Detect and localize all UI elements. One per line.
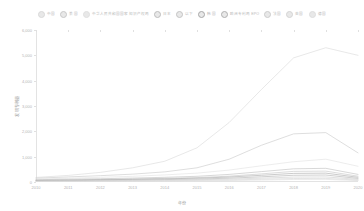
legend-marker-icon xyxy=(60,11,67,18)
x-tick-mark xyxy=(326,30,327,32)
legend-label: 英国 xyxy=(295,12,303,17)
legend-label: 日本 xyxy=(163,12,171,17)
legend-item-7[interactable]: 法国 xyxy=(264,11,281,18)
legend-marker-icon xyxy=(221,11,228,18)
legend-label: 以下 xyxy=(185,12,193,17)
x-tick-label: 2017 xyxy=(257,185,266,190)
legend-marker-icon xyxy=(264,11,271,18)
x-tick-mark xyxy=(294,30,295,32)
legend-marker-icon xyxy=(286,11,293,18)
legend-item-1[interactable]: 美国 xyxy=(60,11,77,18)
legend-label: 美国 xyxy=(69,12,77,17)
legend-item-3[interactable]: 日本 xyxy=(154,11,171,18)
x-tick-label: 2018 xyxy=(289,185,298,190)
y-tick-mark xyxy=(34,131,36,132)
y-tick-label: 2,000 xyxy=(22,129,32,134)
legend-item-8[interactable]: 英国 xyxy=(286,11,303,18)
x-tick-mark xyxy=(68,30,69,32)
legend-marker-icon xyxy=(38,11,45,18)
x-tick-mark xyxy=(133,30,134,32)
series-lines xyxy=(36,30,358,182)
y-tick-label: 3,000 xyxy=(22,104,32,109)
x-tick-label: 2016 xyxy=(225,185,234,190)
x-tick-label: 2014 xyxy=(160,185,169,190)
legend-item-2[interactable]: 中华人民共和国国家知识产权局 xyxy=(83,11,149,18)
x-tick-label: 2011 xyxy=(64,185,73,190)
plot-area: 01,0002,0003,0004,0005,0006,000201020112… xyxy=(36,30,358,182)
chart-legend: 中国美国中华人民共和国国家知识产权局日本以下韩国欧洲专利局 EPO法国英国德国 xyxy=(0,11,364,18)
legend-label: 中华人民共和国国家知识产权局 xyxy=(92,12,149,17)
y-tick-mark xyxy=(34,157,36,158)
x-tick-mark xyxy=(197,30,198,32)
legend-marker-icon xyxy=(309,11,316,18)
x-tick-label: 2010 xyxy=(32,185,41,190)
x-tick-label: 2013 xyxy=(128,185,137,190)
legend-item-4[interactable]: 以下 xyxy=(176,11,193,18)
legend-marker-icon xyxy=(83,11,90,18)
x-tick-label: 2015 xyxy=(193,185,202,190)
x-tick-mark xyxy=(358,30,359,32)
y-tick-label: 4,000 xyxy=(22,78,32,83)
y-tick-label: 0 xyxy=(30,180,32,185)
x-tick-mark xyxy=(261,30,262,32)
x-tick-mark xyxy=(100,30,101,32)
y-tick-label: 1,000 xyxy=(22,154,32,159)
legend-label: 法国 xyxy=(273,12,281,17)
legend-marker-icon xyxy=(176,11,183,18)
legend-item-6[interactable]: 欧洲专利局 EPO xyxy=(221,11,260,18)
series-line-2 xyxy=(36,159,358,179)
y-tick-mark xyxy=(34,106,36,107)
legend-label: 德国 xyxy=(318,12,326,17)
y-tick-mark xyxy=(34,81,36,82)
legend-item-5[interactable]: 韩国 xyxy=(198,11,215,18)
x-tick-label: 2019 xyxy=(321,185,330,190)
y-tick-label: 6,000 xyxy=(22,28,32,33)
legend-label: 中国 xyxy=(47,12,55,17)
x-tick-mark xyxy=(165,30,166,32)
legend-item-0[interactable]: 中国 xyxy=(38,11,55,18)
x-tick-mark xyxy=(36,30,37,32)
y-tick-label: 5,000 xyxy=(22,53,32,58)
y-tick-mark xyxy=(34,182,36,183)
x-tick-label: 2012 xyxy=(96,185,105,190)
y-axis-title: 发明专利量 xyxy=(14,95,20,116)
legend-item-9[interactable]: 德国 xyxy=(309,11,326,18)
x-tick-label: 2020 xyxy=(354,185,363,190)
y-tick-mark xyxy=(34,55,36,56)
x-axis-title: 年份 xyxy=(0,200,364,206)
legend-marker-icon xyxy=(154,11,161,18)
legend-marker-icon xyxy=(198,11,205,18)
line-chart: 中国美国中华人民共和国国家知识产权局日本以下韩国欧洲专利局 EPO法国英国德国 … xyxy=(0,0,364,211)
legend-label: 韩国 xyxy=(207,12,215,17)
series-line-0 xyxy=(36,48,358,178)
x-tick-mark xyxy=(229,30,230,32)
legend-label: 欧洲专利局 EPO xyxy=(230,12,260,17)
